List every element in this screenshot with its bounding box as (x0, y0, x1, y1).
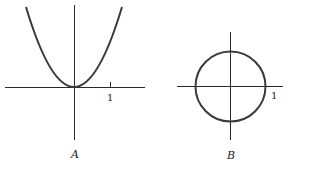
figure-a-tick-label: 1 (107, 92, 113, 103)
figure-b-caption: B (226, 149, 235, 162)
figure-a: 1 A (5, 5, 145, 161)
diagram-canvas: 1 A 1 B (0, 0, 314, 175)
figure-b: 1 B (177, 32, 283, 162)
figure-a-caption: A (70, 148, 79, 161)
figure-b-tick-label: 1 (271, 90, 277, 101)
